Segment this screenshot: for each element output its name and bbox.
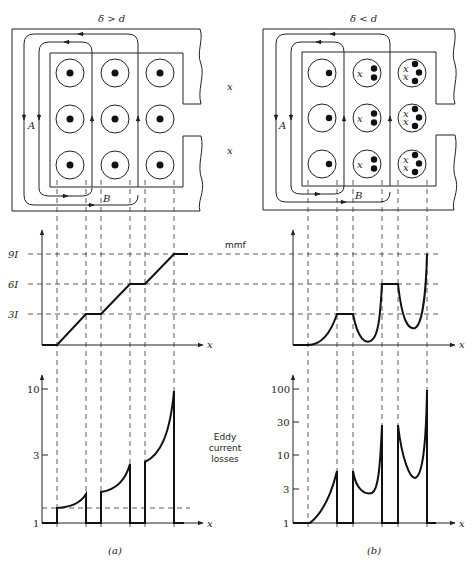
condition-a: δ > d [98,13,125,24]
svg-text:x: x [403,71,409,82]
tick-1: 1 [33,518,39,529]
eddy-label-line1: Eddy [214,432,237,442]
tick-6i: 6I [8,279,19,290]
path-label-b: B [354,190,362,201]
caption-a: (a) [108,545,122,556]
tick-30: 30 [277,417,290,428]
tick-3: 3 [283,484,289,495]
tick-100: 100 [271,384,290,395]
eddy-label-line3: losses [211,454,239,464]
tick-10: 10 [27,384,40,395]
eddy-loss-plot: Eddy current losses x 10 3 1 x 100 30 10… [27,375,465,529]
tick-3i: 3I [8,309,19,320]
x-axis-label: x [459,518,465,529]
x-axis-label: x [459,339,465,350]
x-label-lower: x [227,145,233,156]
svg-text:x: x [357,68,363,79]
path-label-a: A [27,120,35,131]
mmf-label: mmf [225,240,247,250]
panel-a-slot-diagram: δ > d A B [12,13,233,211]
tick-10: 10 [277,450,290,461]
svg-text:x: x [357,159,363,170]
panel-b-slot-diagram: δ < d A B x x x [263,13,457,210]
conductor-grid-b: x x x xx xx xx [308,59,426,178]
x-label-upper: x [227,81,233,92]
tick-3: 3 [33,450,39,461]
eddy-label-line2: current [209,443,242,453]
path-label-a: A [278,120,286,131]
tick-1: 1 [283,518,289,529]
path-label-b: B [102,193,110,204]
svg-text:x: x [403,162,409,173]
mmf-plot: 9I 6I 3I mmf x x [8,230,465,350]
caption-b: (b) [367,545,381,556]
svg-text:x: x [403,116,409,127]
x-axis-label: x [207,339,213,350]
svg-text:x: x [357,113,363,124]
conductor-grid-a [56,59,174,179]
figure-canvas: δ > d A B [0,0,475,567]
condition-b: δ < d [350,13,377,24]
vertical-guides [57,180,427,528]
x-axis-label: x [207,518,213,529]
tick-9i: 9I [8,249,19,260]
